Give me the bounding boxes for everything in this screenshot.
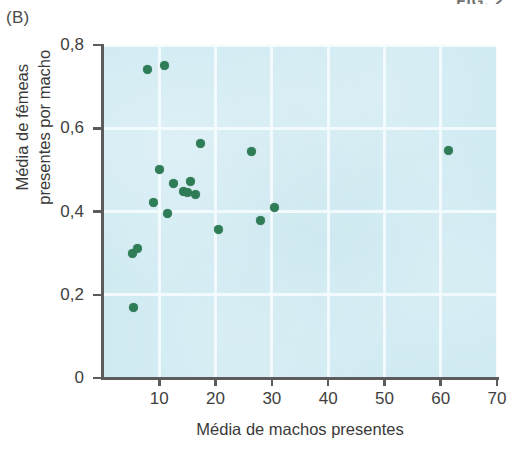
- y-axis-tick: [93, 44, 102, 47]
- data-point: [191, 190, 200, 199]
- x-axis-tick-label: 20: [194, 389, 238, 409]
- x-axis-label: Média de machos presentes: [103, 420, 497, 439]
- data-point: [270, 203, 279, 212]
- x-axis-tick: [383, 377, 386, 386]
- data-point: [169, 179, 178, 188]
- x-axis-tick: [496, 377, 499, 386]
- data-point: [149, 198, 158, 207]
- y-axis-tick: [93, 294, 102, 297]
- y-axis-tick: [93, 127, 102, 130]
- y-axis-label: Média de fêmeaspresentes por macho: [11, 2, 56, 252]
- x-axis-tick-label: 60: [419, 389, 463, 409]
- data-point: [133, 244, 142, 253]
- data-point: [129, 303, 138, 312]
- y-axis-tick: [93, 210, 102, 213]
- data-point: [256, 216, 265, 225]
- x-axis-tick: [327, 377, 330, 386]
- scatter-plot-area: [103, 45, 497, 378]
- x-axis-tick: [439, 377, 442, 386]
- x-axis-tick-label: 50: [362, 389, 406, 409]
- y-axis-tick-label: 0,2: [38, 285, 84, 305]
- data-point: [143, 65, 152, 74]
- data-point: [155, 165, 164, 174]
- x-axis-tick-label: 30: [250, 389, 294, 409]
- y-axis-label-line: Média de fêmeas: [11, 2, 33, 252]
- data-point: [196, 139, 205, 148]
- data-point: [247, 147, 256, 156]
- x-axis-tick: [214, 377, 217, 386]
- x-axis-tick: [271, 377, 274, 386]
- data-point: [163, 209, 172, 218]
- data-point: [444, 146, 453, 155]
- data-point: [160, 61, 169, 70]
- x-axis-tick-label: 40: [306, 389, 350, 409]
- data-point: [214, 225, 223, 234]
- x-axis-tick-label: 10: [137, 389, 181, 409]
- data-point: [186, 177, 195, 186]
- gridline-horizontal: [103, 45, 497, 47]
- gridline-horizontal: [103, 293, 497, 296]
- gridline-horizontal: [103, 127, 497, 130]
- y-axis-tick-label: 0: [38, 368, 84, 388]
- x-axis-tick: [158, 377, 161, 386]
- header-fragment-text: FIG. 2: [456, 0, 504, 4]
- figure-panel-b: FIG. 2 (B) 00,20,40,60,8 10203040506070 …: [0, 0, 512, 462]
- x-axis-tick-label: 70: [475, 389, 512, 409]
- y-axis-label-line: presentes por macho: [33, 2, 55, 252]
- y-axis-tick: [93, 377, 102, 380]
